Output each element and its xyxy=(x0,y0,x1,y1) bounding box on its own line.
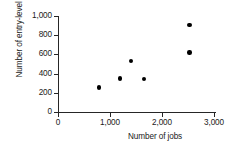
x-tick-label: 2,000 xyxy=(142,119,182,127)
x-tick-mark xyxy=(214,113,215,117)
data-point xyxy=(118,76,122,80)
x-tick-mark xyxy=(110,113,111,117)
y-tick-label: 800 xyxy=(10,31,52,39)
x-tick-label: 1,000 xyxy=(90,119,130,127)
y-tick-label: 1,000 xyxy=(10,12,52,20)
y-tick-label: 400 xyxy=(10,70,52,78)
y-tick-label: 600 xyxy=(10,50,52,58)
plot-area xyxy=(58,16,218,112)
data-point xyxy=(187,23,191,27)
x-tick-label: 0 xyxy=(38,119,78,127)
data-point xyxy=(187,50,191,54)
data-point xyxy=(97,85,101,89)
y-tick-label: 200 xyxy=(10,89,52,97)
data-point xyxy=(142,77,146,81)
x-tick-label: 3,000 xyxy=(194,119,234,127)
x-tick-mark xyxy=(162,113,163,117)
scatter-plot-figure: Number of entry-level jobs 0200400600800… xyxy=(0,0,244,150)
x-axis-line xyxy=(58,112,216,113)
x-tick-mark xyxy=(58,113,59,117)
y-tick-label: 0 xyxy=(10,108,52,116)
x-axis-title: Number of jobs xyxy=(128,132,182,142)
